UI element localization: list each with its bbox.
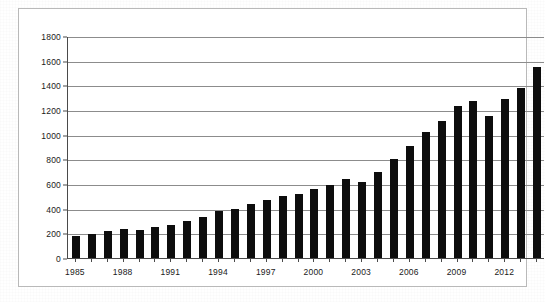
x-tick-mark (472, 259, 473, 262)
x-tick-mark (218, 259, 219, 262)
x-tick-mark (393, 259, 394, 262)
y-axis: 020040060080010001200140016001800 (19, 37, 67, 259)
x-tick-label: 1988 (113, 267, 133, 277)
plot-area (67, 37, 544, 259)
x-tick-label: 1991 (160, 267, 180, 277)
bar (358, 182, 366, 258)
y-tick-label: 1600 (41, 57, 61, 67)
x-tick-mark (313, 259, 314, 262)
x-tick-mark (361, 259, 362, 262)
bar (454, 106, 462, 258)
x-tick-mark (123, 259, 124, 262)
x-tick-label: 1997 (256, 267, 276, 277)
y-tick-label: 1800 (41, 32, 61, 42)
x-tick-mark (186, 259, 187, 262)
bar (120, 229, 128, 258)
bar (533, 67, 541, 258)
bar (104, 231, 112, 258)
x-tick-mark (75, 259, 76, 262)
y-tick-label: 200 (46, 229, 61, 239)
x-tick-label: 1994 (208, 267, 228, 277)
x-tick-label: 2009 (447, 267, 467, 277)
x-tick-mark (345, 259, 346, 262)
y-tick-label: 1000 (41, 131, 61, 141)
x-tick-label: 2006 (399, 267, 419, 277)
bar (342, 179, 350, 258)
x-tick-mark (520, 259, 521, 262)
x-tick-mark (504, 259, 505, 262)
x-tick-mark (536, 259, 537, 262)
x-tick-mark (250, 259, 251, 262)
x-tick-mark (154, 259, 155, 262)
bar (517, 88, 525, 258)
bar (469, 101, 477, 258)
bar (326, 185, 334, 258)
x-tick-mark (107, 259, 108, 262)
x-axis: 1985198819911994199720002003200620092012 (67, 259, 544, 283)
x-tick-label: 2012 (494, 267, 514, 277)
x-tick-mark (139, 259, 140, 262)
bar (374, 172, 382, 258)
bar (485, 116, 493, 258)
x-tick-mark (409, 259, 410, 262)
x-tick-mark (91, 259, 92, 262)
y-tick-label: 1200 (41, 106, 61, 116)
x-tick-label: 2003 (351, 267, 371, 277)
x-tick-label: 1985 (65, 267, 85, 277)
x-tick-mark (170, 259, 171, 262)
x-tick-mark (457, 259, 458, 262)
x-tick-label: 2000 (304, 267, 324, 277)
bar (167, 225, 175, 258)
x-tick-mark (266, 259, 267, 262)
bar (247, 204, 255, 258)
figure-frame: 020040060080010001200140016001800 198519… (18, 8, 527, 287)
bar (501, 99, 509, 258)
x-tick-mark (488, 259, 489, 262)
bar-series (68, 37, 544, 258)
x-tick-mark (425, 259, 426, 262)
x-tick-mark (441, 259, 442, 262)
y-tick-label: 600 (46, 180, 61, 190)
bar (310, 189, 318, 258)
bar (136, 230, 144, 258)
bar (263, 200, 271, 258)
bar (295, 194, 303, 258)
x-tick-mark (298, 259, 299, 262)
bar (438, 121, 446, 258)
bar (183, 221, 191, 258)
bar (151, 227, 159, 258)
bar (406, 146, 414, 258)
x-tick-mark (202, 259, 203, 262)
bar (72, 236, 80, 258)
y-tick-label: 800 (46, 155, 61, 165)
bar (390, 159, 398, 258)
bar (199, 217, 207, 258)
x-tick-mark (329, 259, 330, 262)
x-tick-mark (377, 259, 378, 262)
y-tick-label: 400 (46, 205, 61, 215)
bar (279, 196, 287, 258)
bar (88, 234, 96, 258)
chart-screenshot: 020040060080010001200140016001800 198519… (0, 0, 545, 302)
x-tick-mark (282, 259, 283, 262)
x-tick-mark (234, 259, 235, 262)
y-tick-label: 1400 (41, 81, 61, 91)
bar (231, 209, 239, 258)
bar (215, 211, 223, 258)
y-tick-label: 0 (56, 254, 61, 264)
bar (422, 132, 430, 258)
